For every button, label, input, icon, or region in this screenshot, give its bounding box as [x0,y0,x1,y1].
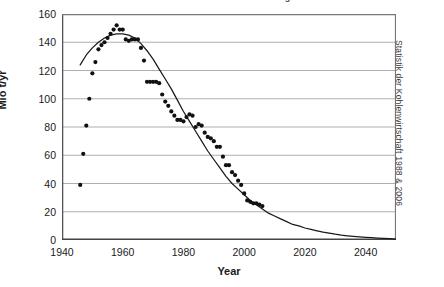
y-tick-label-60: 60 [22,150,56,160]
data-point [218,145,222,149]
y-tick-label-80: 80 [22,122,56,132]
data-point [212,139,216,143]
data-point [139,46,143,50]
y-tick-label-100: 100 [22,94,56,104]
gridlines [62,14,396,212]
y-tick-label-140: 140 [22,37,56,47]
x-tick-label-2040: 2040 [336,246,396,258]
data-point [136,37,140,41]
data-point [115,23,119,27]
y-axis-tick-labels: 020406080100120140160 [16,14,56,240]
plot-area [62,14,396,240]
fitted-curve-path [80,34,396,239]
chart-plot-svg [62,14,396,240]
data-point [87,97,91,101]
data-point [172,114,176,118]
data-point [102,40,106,44]
x-tick-label-1980: 1980 [153,246,213,258]
y-tick-label-40: 40 [22,179,56,189]
source-note: Statistik der Kohlenwirtschaft 1988 & 20… [394,40,404,240]
data-point [105,36,109,40]
chart-title: Deutsche Steinkohlenförderung [0,0,444,2]
data-point [203,131,207,135]
y-tick-label-120: 120 [22,66,56,76]
data-point [93,60,97,64]
data-point [233,173,237,177]
data-point [236,179,240,183]
data-point [157,81,161,85]
y-axis-title: Mio t/yr [0,40,8,140]
data-point [227,163,231,167]
data-point [112,27,116,31]
data-point [163,99,167,103]
y-tick-label-20: 20 [22,207,56,217]
x-tick-label-2000: 2000 [214,246,274,258]
data-point [90,71,94,75]
data-point [96,47,100,51]
y-tick-label-160: 160 [22,9,56,19]
data-point [142,59,146,63]
x-axis-tick-labels: 194019601980200020202040 [62,246,396,262]
data-point [242,191,246,195]
data-point [166,104,170,108]
x-tick-label-1940: 1940 [32,246,92,258]
x-axis-title: Year [62,265,396,277]
fitted-curve [80,34,396,239]
data-point [190,114,194,118]
data-point [239,183,243,187]
clipped-title-strip: Deutsche Steinkohlenförderung [0,0,444,7]
data-point [81,152,85,156]
chart-figure: Deutsche Steinkohlenförderung Mio t/yr 0… [0,0,444,287]
data-point [108,32,112,36]
data-point [121,27,125,31]
data-point [160,92,164,96]
data-point [169,109,173,113]
data-point [200,123,204,127]
data-point [221,155,225,159]
data-point [84,123,88,127]
x-tick-label-1960: 1960 [93,246,153,258]
scatter-points [78,23,264,208]
y-tick-label-0: 0 [22,235,56,245]
x-tick-label-2020: 2020 [275,246,335,258]
data-point [260,204,264,208]
data-point [78,183,82,187]
data-point [181,119,185,123]
